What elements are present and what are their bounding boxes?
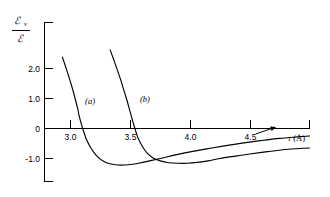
curve-b-label: (b) xyxy=(140,94,150,104)
y-axis-tick-labels: 2.0 1.0 0 -1.0 xyxy=(25,64,40,164)
x-tick-label-4-0: 4.0 xyxy=(185,132,197,142)
x-tick-label-3-5: 3.5 xyxy=(125,132,137,142)
x-tick-label-4-5: 4.5 xyxy=(245,132,257,142)
potential-energy-chart: ℰ v ℰ 2.0 1.0 0 -1.0 xyxy=(0,0,330,197)
curve-b-line xyxy=(110,50,309,163)
y-tick-label-minus-1-0: -1.0 xyxy=(25,154,40,164)
y-tick-label-1-0: 1.0 xyxy=(28,94,40,104)
annotation-arrow-group xyxy=(256,127,276,134)
y-tick-label-0: 0 xyxy=(35,124,40,134)
curve-a-line xyxy=(62,57,309,165)
y-axis-ticks xyxy=(45,23,54,182)
x-axis-tick-labels: 3.0 3.5 4.0 4.5 xyxy=(65,132,257,142)
chart-canvas: ℰ v ℰ 2.0 1.0 0 -1.0 xyxy=(0,0,330,197)
curve-a-label: (a) xyxy=(85,96,95,106)
y-axis-label-group: ℰ v ℰ xyxy=(12,15,30,44)
annotation-arrow-shaft xyxy=(256,129,271,134)
x-tick-label-3-0: 3.0 xyxy=(65,132,77,142)
y-tick-label-2-0: 2.0 xyxy=(28,64,40,74)
y-axis-numerator-subscript: v xyxy=(24,20,27,27)
y-axis-numerator-symbol: ℰ xyxy=(14,15,21,26)
y-axis-denominator-symbol: ℰ xyxy=(17,33,24,44)
